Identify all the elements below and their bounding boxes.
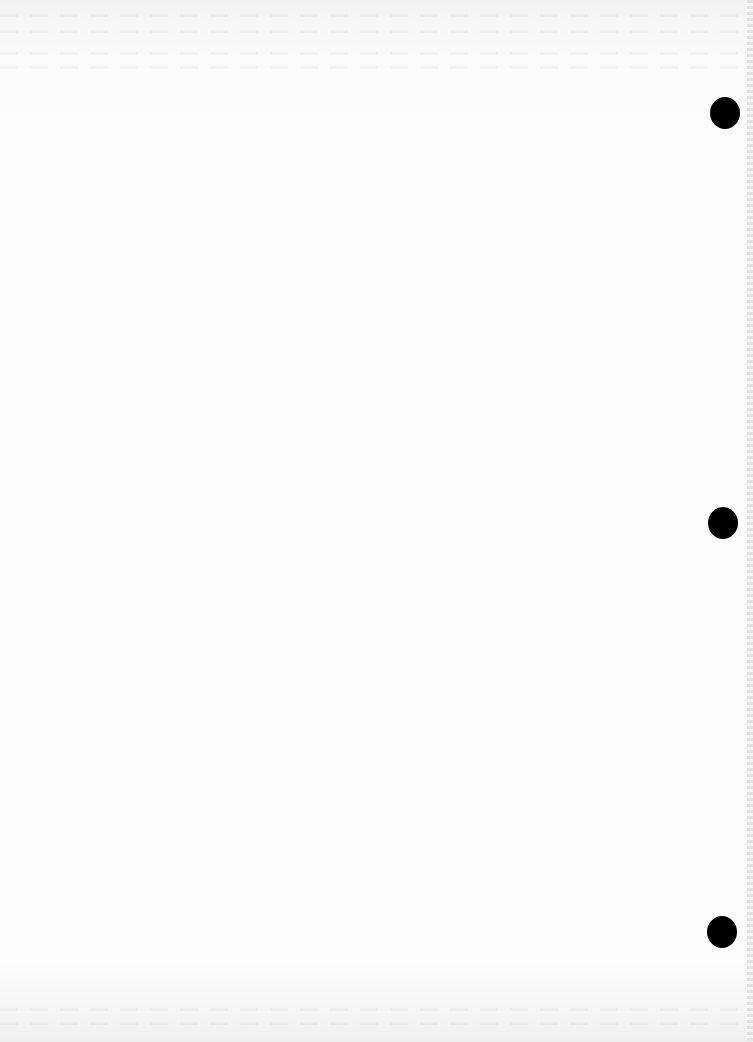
- punch-hole-top: [710, 97, 740, 129]
- punch-hole-bottom: [707, 916, 737, 948]
- bleed-through-line: [0, 30, 753, 33]
- bleed-through-line: [0, 52, 753, 55]
- scanned-page: [0, 0, 753, 1042]
- page-edge: [747, 0, 753, 1042]
- bleed-through-line: [0, 1022, 753, 1025]
- punch-hole-middle: [708, 507, 738, 539]
- bleed-through-line: [0, 66, 753, 69]
- bleed-through-line: [0, 1008, 753, 1011]
- bleed-through-line: [0, 14, 753, 17]
